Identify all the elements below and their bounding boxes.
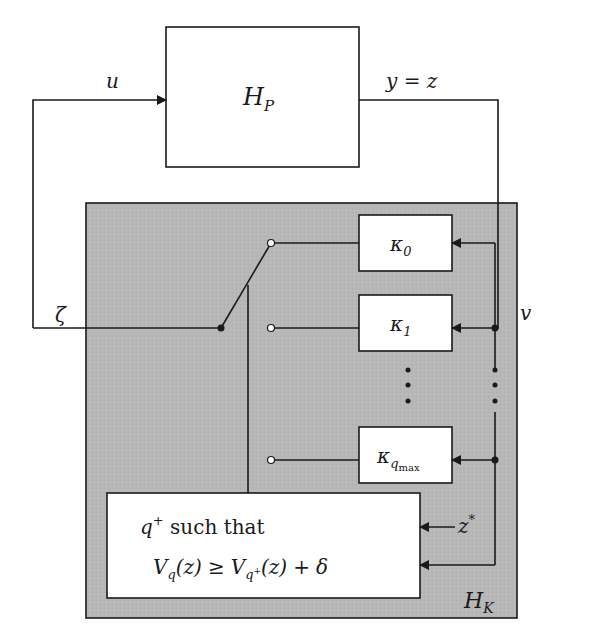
- supervisor-box: [107, 493, 420, 598]
- block-diagram: HP u y = z ζ v κ0 κ1 κqmax: [0, 0, 611, 643]
- signal-v-label: v: [520, 301, 532, 325]
- switch-terminal-0: [268, 240, 275, 247]
- signal-u-label: u: [106, 69, 119, 93]
- switch-terminal-qmax: [268, 457, 275, 464]
- signal-y-label: y = z: [385, 69, 438, 93]
- switch-terminal-1: [268, 325, 275, 332]
- switch-pivot: [218, 325, 225, 332]
- supervisor-line-2: Vq(z)≥Vq+(z)+δ: [153, 555, 328, 582]
- junction-dot-qmax: [492, 457, 499, 464]
- signal-zeta-label: ζ: [55, 303, 67, 327]
- subcontroller-box-1: [359, 295, 452, 351]
- subcontroller-box-qmax: [359, 427, 452, 483]
- junction-dot-v: [492, 325, 499, 332]
- subcontroller-box-0: [359, 215, 452, 271]
